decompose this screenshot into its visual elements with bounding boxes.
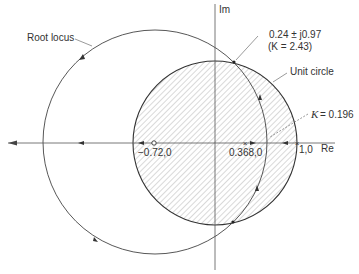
one-point-label: 1,0 (299, 144, 313, 155)
k-breakaway-value: = 0.196 (320, 109, 354, 120)
imag-axis-label: Im (219, 4, 230, 15)
unit-circle-label: Unit circle (290, 66, 334, 77)
root-locus-label: Root locus (27, 32, 74, 43)
axis-arrow-1-icon (78, 141, 84, 145)
pole-point-label: 0.368,0 (229, 147, 263, 158)
zero-point-label: −0.72,0 (138, 147, 172, 158)
intersection-point-label: 0.24 ± j0.97 (269, 29, 322, 40)
k-breakaway-prefix: K (310, 108, 319, 120)
intersection-lower-dot-icon (231, 220, 234, 223)
real-axis-label: Re (321, 143, 334, 154)
unit-circle-leader (273, 73, 287, 82)
intersection-gain-label: (K = 2.43) (268, 41, 312, 52)
zero-marker-icon (152, 141, 156, 145)
intersection-leader (236, 36, 258, 60)
intersection-upper-dot-icon (232, 60, 235, 63)
root-locus-leader (75, 39, 92, 46)
root-locus-diagram: × × Root locus Im 0.24 ± j0.97 (K = 2.43… (0, 0, 359, 274)
real-axis-left-arrow-icon (8, 141, 17, 146)
